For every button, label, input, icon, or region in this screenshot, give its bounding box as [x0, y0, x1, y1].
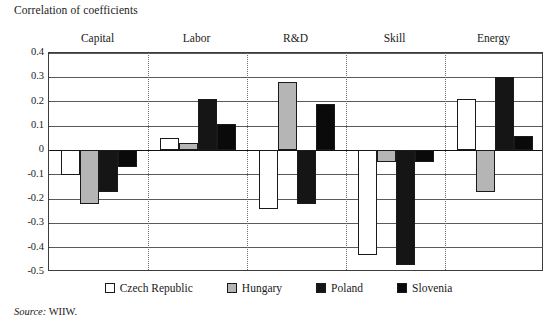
bar-slot	[160, 53, 179, 270]
bar-slot	[61, 53, 80, 270]
bar-r-d-czech[interactable]	[259, 150, 278, 208]
legend-swatch-slovenia	[397, 283, 407, 293]
bar-slot	[99, 53, 118, 270]
bar-skill-slovenia[interactable]	[415, 150, 434, 162]
bar-slot	[179, 53, 198, 270]
bar-group-r-d	[247, 53, 346, 270]
bar-capital-czech[interactable]	[61, 150, 80, 174]
bar-slot	[297, 53, 316, 270]
bar-slot	[118, 53, 137, 270]
bar-slot	[457, 53, 476, 270]
bar-capital-poland[interactable]	[99, 150, 118, 191]
legend-item-hungary[interactable]: Hungary	[227, 282, 282, 294]
category-label-capital: Capital	[48, 29, 147, 47]
bar-labor-hungary[interactable]	[179, 143, 198, 150]
bar-slot	[495, 53, 514, 270]
bar-slot	[259, 53, 278, 270]
bar-energy-czech[interactable]	[457, 99, 476, 150]
y-axis: 0.40.30.20.10-0.1-0.2-0.3-0.4-0.5	[14, 52, 44, 271]
bar-group-energy	[445, 53, 543, 270]
y-tick-label--0.3: -0.3	[14, 217, 44, 227]
category-label-energy: Energy	[444, 29, 543, 47]
bar-slot	[514, 53, 533, 270]
bar-group-capital	[49, 53, 148, 270]
legend-label-czech: Czech Republic	[120, 282, 193, 294]
bar-energy-hungary[interactable]	[476, 150, 495, 191]
bar-slot	[476, 53, 495, 270]
bar-energy-slovenia[interactable]	[514, 136, 533, 151]
bar-energy-poland[interactable]	[495, 77, 514, 150]
legend-item-slovenia[interactable]: Slovenia	[397, 282, 452, 294]
y-tick-label--0.5: -0.5	[14, 266, 44, 276]
legend-label-hungary: Hungary	[242, 282, 282, 294]
bar-group-labor	[148, 53, 247, 270]
legend-item-czech[interactable]: Czech Republic	[105, 282, 193, 294]
bar-labor-slovenia[interactable]	[217, 124, 236, 151]
chart-legend: Czech RepublicHungaryPolandSlovenia	[14, 278, 543, 298]
bar-capital-hungary[interactable]	[80, 150, 99, 204]
bar-slot	[415, 53, 434, 270]
bar-skill-czech[interactable]	[358, 150, 377, 255]
category-label-row: CapitalLaborR&DSkillEnergy	[48, 29, 543, 47]
y-tick-label-0.2: 0.2	[14, 96, 44, 106]
bar-skill-hungary[interactable]	[377, 150, 396, 162]
plot-area	[48, 52, 543, 271]
chart-title: Correlation of coefficients	[14, 4, 138, 16]
bar-slot	[198, 53, 217, 270]
y-tick-label--0.1: -0.1	[14, 169, 44, 179]
legend-label-poland: Poland	[331, 282, 363, 294]
bar-slot	[278, 53, 297, 270]
legend-item-poland[interactable]: Poland	[316, 282, 363, 294]
bar-group-skill	[346, 53, 445, 270]
bar-slot	[396, 53, 415, 270]
category-label-labor: Labor	[147, 29, 246, 47]
bar-labor-poland[interactable]	[198, 99, 217, 150]
source-note: Source: WIIW.	[14, 306, 77, 317]
source-prefix: Source:	[14, 306, 46, 317]
category-label-skill: Skill	[345, 29, 444, 47]
legend-swatch-czech	[105, 283, 115, 293]
bar-slot	[377, 53, 396, 270]
y-tick-label-0.1: 0.1	[14, 120, 44, 130]
source-text: WIIW.	[49, 306, 77, 317]
category-label-r-d: R&D	[246, 29, 345, 47]
y-tick-label--0.4: -0.4	[14, 242, 44, 252]
y-tick-label-0.3: 0.3	[14, 71, 44, 81]
bar-slot	[358, 53, 377, 270]
bar-r-d-slovenia[interactable]	[316, 104, 335, 150]
legend-swatch-poland	[316, 283, 326, 293]
bar-slot	[217, 53, 236, 270]
bar-skill-poland[interactable]	[396, 150, 415, 264]
y-tick-label-0: 0	[14, 144, 44, 154]
bar-slot	[316, 53, 335, 270]
legend-swatch-hungary	[227, 283, 237, 293]
bar-labor-czech[interactable]	[160, 138, 179, 150]
y-tick-label--0.2: -0.2	[14, 193, 44, 203]
y-tick-label-0.4: 0.4	[14, 47, 44, 57]
legend-label-slovenia: Slovenia	[412, 282, 452, 294]
bar-r-d-poland[interactable]	[297, 150, 316, 204]
bar-capital-slovenia[interactable]	[118, 150, 137, 167]
bar-r-d-hungary[interactable]	[278, 82, 297, 150]
chart-plot-wrapper: 0.40.30.20.10-0.1-0.2-0.3-0.4-0.5	[14, 52, 543, 271]
bar-slot	[80, 53, 99, 270]
